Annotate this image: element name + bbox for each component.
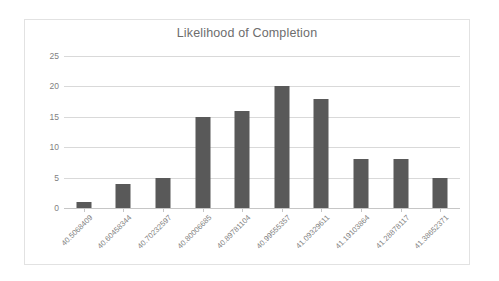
x-axis-tickmark: [361, 208, 362, 212]
x-axis-tickmark: [401, 208, 402, 212]
x-axis-tick-label: 40.70232597: [136, 213, 174, 251]
bar-slot: [381, 56, 421, 208]
bar[interactable]: [155, 178, 170, 208]
bar-slot: [420, 56, 460, 208]
x-axis-tickmark: [163, 208, 164, 212]
x-axis-tick-label: 41.28878117: [374, 213, 411, 250]
x-axis-tickmark: [203, 208, 204, 212]
y-axis-tick-label: 25: [50, 51, 59, 61]
bar[interactable]: [116, 184, 131, 208]
bar[interactable]: [195, 117, 210, 208]
bar-slot: [222, 56, 262, 208]
x-axis-tick-label: 41.38652371: [413, 213, 451, 251]
y-axis-tick-label: 5: [54, 173, 59, 183]
bar-slot: [262, 56, 302, 208]
bar[interactable]: [433, 178, 448, 208]
y-axis-tick-label: 10: [50, 142, 59, 152]
x-axis-tickmark: [440, 208, 441, 212]
bar-slot: [183, 56, 223, 208]
bar[interactable]: [314, 99, 329, 208]
x-axis-tick-label: 40.60458344: [96, 213, 134, 251]
x-axis-labels-group: 40.506840940.6045834440.7023259740.80006…: [64, 213, 460, 263]
bar-slot: [302, 56, 342, 208]
y-axis-tick-label: 15: [50, 112, 59, 122]
chart-container[interactable]: Likelihood of Completion 0510152025 40.5…: [24, 19, 470, 265]
x-axis-tick-label: 40.89781104: [215, 213, 252, 250]
bars-group: [64, 56, 460, 208]
bar-slot: [341, 56, 381, 208]
bar[interactable]: [274, 86, 289, 208]
bar-slot: [104, 56, 144, 208]
x-axis-tickmark: [242, 208, 243, 212]
y-axis-tick-label: 0: [54, 203, 59, 213]
bar-slot: [143, 56, 183, 208]
bar[interactable]: [235, 111, 250, 208]
bar[interactable]: [353, 159, 368, 208]
x-axis-tickmark: [84, 208, 85, 212]
x-axis-tick-label: 41.19103864: [334, 213, 372, 251]
chart-title: Likelihood of Completion: [25, 26, 469, 40]
x-axis-tick-label: 40.99555357: [254, 213, 292, 251]
x-axis-tickmark: [123, 208, 124, 212]
y-axis-tick-label: 20: [50, 81, 59, 91]
bar-slot: [64, 56, 104, 208]
x-axis-tickmarks-group: [64, 208, 460, 212]
x-axis-tickmark: [282, 208, 283, 212]
x-axis-tick-label: 40.5068409: [59, 213, 94, 248]
x-axis-tick-label: 40.80006685: [175, 213, 213, 251]
x-axis-tick-label: 41.09329611: [294, 213, 331, 250]
bar[interactable]: [393, 159, 408, 208]
plot-area: 0510152025: [64, 56, 460, 208]
x-axis-tickmark: [321, 208, 322, 212]
